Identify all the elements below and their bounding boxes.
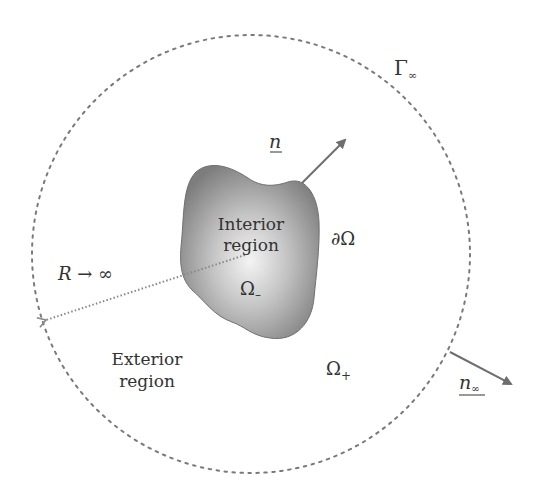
gamma-infinity-label: Γ∞ [394,56,417,82]
radius-label: R → ∞ [57,263,113,284]
omega-plus-label: Ω+ [326,358,351,383]
exterior-label-line1: Exterior [112,349,184,369]
diagram-canvas: Γ∞ n Interior region ∂Ω Ω– R → ∞ Exterio… [0,0,537,496]
normal-infinity-label: n∞ [459,371,480,394]
exterior-label-line2: region [119,371,175,391]
boundary-label: ∂Ω [331,228,355,249]
interior-label-line1: Interior [218,214,285,234]
normal-label: n [269,130,281,152]
interior-label-line2: region [223,235,279,255]
normal-vector-arrow [302,140,345,183]
